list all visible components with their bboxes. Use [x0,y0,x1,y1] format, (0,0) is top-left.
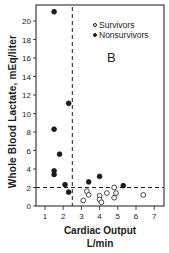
survivor-point [81,198,86,203]
survivor-point [112,185,117,190]
survivor-point [104,191,109,196]
survivor-point [141,193,146,198]
x-tick-label: 6 [134,212,139,221]
x-tick-label: 4 [97,212,102,221]
nonsurvivor-point [63,182,68,187]
x-axis-unit: L/min [36,238,164,249]
panel-label: B [107,50,116,65]
y-axis-label: Whole Blood Lactate, mEq/liter [7,12,18,212]
nonsurvivor-point [66,190,71,195]
x-tick-label: 5 [116,212,121,221]
legend-item-survivors: Survivors [93,20,149,30]
y-tick-label: 10 [22,110,31,119]
nonsurvivor-point [66,101,71,106]
y-tick-label: 0 [27,202,32,211]
x-tick-label: 7 [152,212,157,221]
nonsurvivor-point [52,127,57,132]
survivor-point [114,191,119,196]
nonsurvivor-point [52,9,57,14]
nonsurvivor-point [86,180,91,185]
nonsurvivor-point [121,183,126,188]
nonsurvivor-point [97,174,102,179]
y-tick-label: 6 [27,147,32,156]
y-tick-label: 2 [27,184,32,193]
y-tick-label: 8 [27,128,32,137]
filled-circle-icon [93,33,97,37]
x-tick-label: 2 [61,212,66,221]
y-tick-label: 18 [22,36,31,45]
survivor-point [99,200,104,205]
legend-item-nonsurvivors: Nonsurvivors [93,30,149,40]
survivor-point [86,193,91,198]
x-tick-label: 1 [43,212,48,221]
y-tick-label: 20 [22,17,31,26]
legend: Survivors Nonsurvivors [93,20,149,40]
nonsurvivor-point [57,152,62,157]
survivor-point [112,195,117,200]
legend-label-survivors: Survivors [99,20,134,30]
x-tick-label: 3 [79,212,84,221]
open-circle-icon [93,23,97,27]
y-tick-label: 14 [22,73,31,82]
y-tick-label: 12 [22,91,31,100]
nonsurvivor-point [52,172,57,177]
y-tick-label: 16 [22,54,31,63]
legend-label-nonsurvivors: Nonsurvivors [99,30,149,40]
x-axis-label: Cardiac Output [36,225,164,236]
y-tick-label: 4 [27,165,32,174]
